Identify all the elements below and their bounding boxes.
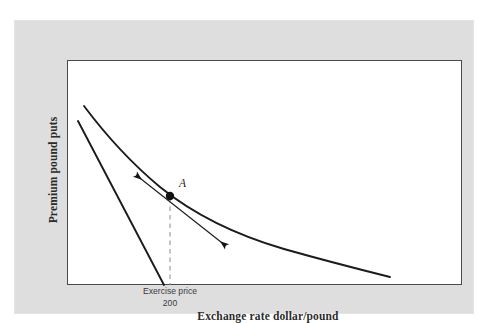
point-a-label: A	[178, 177, 187, 189]
plot-svg: A	[68, 61, 463, 286]
plot-area: A	[67, 60, 462, 285]
figure-panel: A Premium pound puts Exchange rate dolla…	[14, 20, 474, 314]
exercise-price-text: Exercise price	[122, 286, 218, 298]
premium-curve	[84, 106, 390, 277]
exercise-price-annotation: Exercise price 200	[122, 286, 218, 309]
x-axis-label: Exchange rate dollar/pound	[168, 310, 368, 322]
point-a-marker	[166, 192, 174, 200]
exercise-price-value: 200	[122, 298, 218, 310]
intrinsic-value-line	[78, 121, 164, 285]
figure-container: A Premium pound puts Exchange rate dolla…	[0, 0, 488, 323]
y-axis-label: Premium pound puts	[44, 90, 62, 250]
